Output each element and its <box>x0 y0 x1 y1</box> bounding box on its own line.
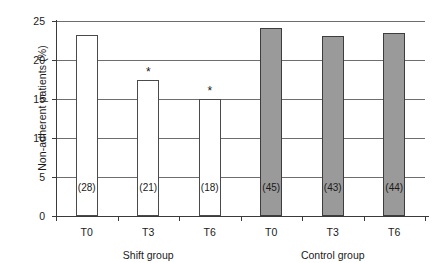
gridline <box>56 177 425 178</box>
bar-count-label: (44) <box>384 182 404 193</box>
bar-count-label: (43) <box>323 182 343 193</box>
x-tick-label: T3 <box>327 226 339 238</box>
x-tick-label: T6 <box>388 226 400 238</box>
plot-area: 0510152025 (28)(21)*(18)*(45)(43)(44) T0… <box>56 21 425 216</box>
bar: (44) <box>383 33 405 216</box>
bar: (28) <box>76 35 98 216</box>
gridline <box>56 138 425 139</box>
bar-count-label: (18) <box>200 182 220 193</box>
bar: (21) <box>137 80 159 217</box>
gridline <box>56 99 425 100</box>
y-axis-spine <box>56 20 57 217</box>
x-tick-label: T0 <box>265 226 277 238</box>
group-label: Control group <box>301 249 365 261</box>
bar-count-label: (45) <box>261 182 281 193</box>
group-label: Shift group <box>123 249 174 261</box>
y-tick-mark: 25 <box>52 21 57 22</box>
y-tick-mark: 15 <box>52 99 57 100</box>
y-tick-mark: 5 <box>52 177 57 178</box>
x-tick-mark <box>425 216 426 221</box>
x-tick-label: T6 <box>204 226 216 238</box>
x-tick-mark <box>56 216 57 221</box>
gridline <box>56 21 425 22</box>
x-tick-mark <box>241 216 242 221</box>
y-tick-label: 20 <box>33 54 45 66</box>
y-tick-label: 10 <box>33 132 45 144</box>
y-tick-mark: 10 <box>52 138 57 139</box>
x-tick-mark <box>364 216 365 221</box>
bar-count-label: (21) <box>138 182 158 193</box>
bar-count-label: (28) <box>77 182 97 193</box>
x-tick-label: T3 <box>142 226 154 238</box>
gridline <box>56 60 425 61</box>
x-tick-mark <box>302 216 303 221</box>
x-tick-label: T0 <box>81 226 93 238</box>
bar: (45) <box>260 28 282 216</box>
x-tick-mark <box>179 216 180 221</box>
bar: (43) <box>322 36 344 216</box>
y-tick-label: 15 <box>33 93 45 105</box>
significance-marker: * <box>137 67 159 77</box>
y-tick-label: 5 <box>39 171 45 183</box>
x-tick-mark <box>118 216 119 221</box>
bar-chart-figure: Non-adherent patients (%) 0510152025 (28… <box>0 0 442 263</box>
bar: (18) <box>199 99 221 216</box>
significance-marker: * <box>199 86 221 96</box>
y-tick-mark: 20 <box>52 60 57 61</box>
y-tick-label: 0 <box>39 210 45 222</box>
y-tick-label: 25 <box>33 15 45 27</box>
